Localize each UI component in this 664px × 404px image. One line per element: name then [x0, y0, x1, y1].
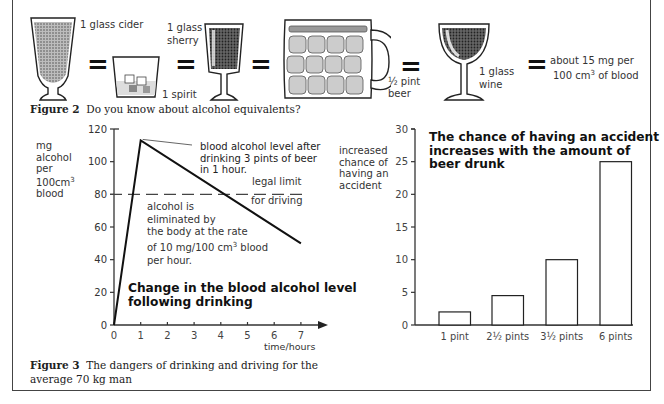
- right-y-tick-label: 15: [395, 222, 408, 233]
- bar-category-label: 1 pint: [441, 331, 469, 342]
- bar-chart-svg: 0510152025301 pint2½ pints3½ pints6 pint…: [0, 0, 664, 404]
- bar-1: [439, 312, 471, 325]
- right-y-tick-label: 10: [395, 254, 408, 265]
- bar-2: [492, 296, 524, 325]
- bar-category-label: 2½ pints: [486, 331, 529, 342]
- bar-3: [546, 260, 578, 325]
- right-y-tick-label: 5: [402, 287, 408, 298]
- bar-4: [600, 162, 632, 325]
- bar-category-label: 3½ pints: [540, 331, 583, 342]
- right-y-tick-label: 0: [402, 320, 408, 331]
- bar-category-label: 6 pints: [599, 331, 632, 342]
- right-y-tick-label: 20: [395, 189, 408, 200]
- right-y-tick-label: 30: [395, 124, 408, 135]
- right-y-tick-label: 25: [395, 156, 408, 167]
